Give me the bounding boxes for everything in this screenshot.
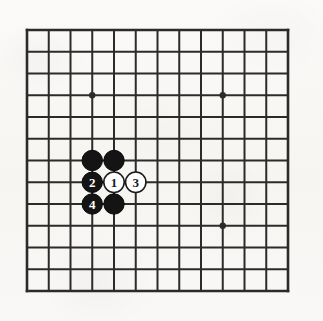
black-stone-disc [104,150,124,170]
go-board-diagram: 2134 [0,0,323,321]
black-stone-upper-right [104,150,124,170]
black-stone-move-4: 4 [82,194,102,214]
stone-move-number-1: 1 [111,175,118,190]
white-stone-move-3: 3 [126,172,146,192]
black-stone-move-2: 2 [82,172,102,192]
white-stone-move-1: 1 [104,172,124,192]
go-board-svg: 2134 [0,0,323,321]
black-stone-disc [82,150,102,170]
star-point-lower-right [220,223,226,229]
black-stone-upper-left [82,150,102,170]
black-stone-disc [104,194,124,214]
black-stone-lower-right [104,194,124,214]
stone-move-number-3: 3 [133,175,140,190]
stone-move-number-2: 2 [89,175,96,190]
star-point-upper-right [220,92,226,98]
board-grid-lines [27,30,288,291]
star-point-upper-left [89,92,95,98]
stone-move-number-4: 4 [89,197,96,212]
